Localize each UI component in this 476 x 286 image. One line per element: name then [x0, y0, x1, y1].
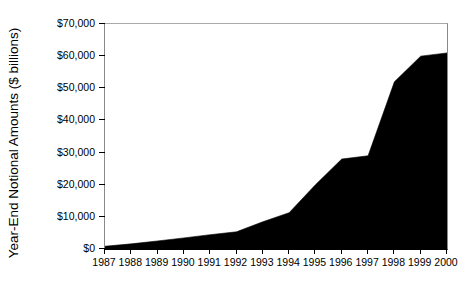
- x-axis-tick-label: 1998: [382, 256, 405, 268]
- y-axis-tick-label: $0: [83, 242, 95, 254]
- y-axis-tick-mark: [99, 152, 105, 153]
- x-axis-tick-mark: [393, 249, 394, 254]
- x-axis-tick-mark: [288, 249, 289, 254]
- x-axis-tick-mark: [341, 249, 342, 254]
- x-axis-tick-mark: [183, 249, 184, 254]
- x-axis-tick-label: 1989: [145, 256, 168, 268]
- x-axis-tick-label: 1994: [276, 256, 299, 268]
- y-axis-tick-mark: [99, 184, 105, 185]
- x-axis-tick-mark: [104, 249, 105, 254]
- x-axis-tick-mark: [420, 249, 421, 254]
- y-axis-tick-mark: [99, 87, 105, 88]
- y-axis-tick-label: $60,000: [57, 49, 95, 61]
- x-axis-tick-mark: [314, 249, 315, 254]
- x-axis-tick-label: 1996: [329, 256, 352, 268]
- x-axis-tick-mark: [367, 249, 368, 254]
- y-axis-tick-label: $10,000: [57, 210, 95, 222]
- x-axis-tick-label: 1993: [250, 256, 273, 268]
- x-axis-tick-label: 1995: [303, 256, 326, 268]
- x-axis-tick-label: 1991: [198, 256, 221, 268]
- y-axis-tick-label: $20,000: [57, 178, 95, 190]
- y-axis-tick-mark: [99, 23, 105, 24]
- x-axis-tick-mark: [446, 249, 447, 254]
- x-axis-tick-label-group: 1987198819891990199119921993199419951996…: [0, 256, 476, 276]
- x-axis-tick-label: 1990: [171, 256, 194, 268]
- y-axis-tick-mark: [99, 55, 105, 56]
- plot-area: [104, 23, 448, 250]
- x-axis-tick-mark: [157, 249, 158, 254]
- x-axis-tick-label: 1988: [119, 256, 142, 268]
- area-series-svg: [105, 24, 447, 249]
- x-axis-tick-mark: [236, 249, 237, 254]
- x-axis-tick-label: 1992: [224, 256, 247, 268]
- y-axis-title: Year-End Notional Amounts ($ billions): [0, 0, 26, 286]
- y-axis-tick-label: $40,000: [57, 113, 95, 125]
- area-series-path: [105, 53, 447, 249]
- y-axis-tick-label: $30,000: [57, 146, 95, 158]
- x-axis-tick-mark: [209, 249, 210, 254]
- y-axis-tick-label: $50,000: [57, 81, 95, 93]
- x-axis-tick-mark: [262, 249, 263, 254]
- area-chart-figure: Year-End Notional Amounts ($ billions) $…: [0, 0, 476, 286]
- x-axis-tick-label: 2000: [434, 256, 457, 268]
- y-axis-tick-mark: [99, 216, 105, 217]
- y-axis-tick-mark: [99, 119, 105, 120]
- y-axis-tick-label: $70,000: [57, 17, 95, 29]
- x-axis-tick-mark: [130, 249, 131, 254]
- y-axis-tick-label-group: $0$10,000$20,000$30,000$40,000$50,000$60…: [26, 0, 100, 286]
- x-axis-tick-label: 1999: [408, 256, 431, 268]
- x-axis-tick-label: 1997: [355, 256, 378, 268]
- x-axis-tick-label: 1987: [92, 256, 115, 268]
